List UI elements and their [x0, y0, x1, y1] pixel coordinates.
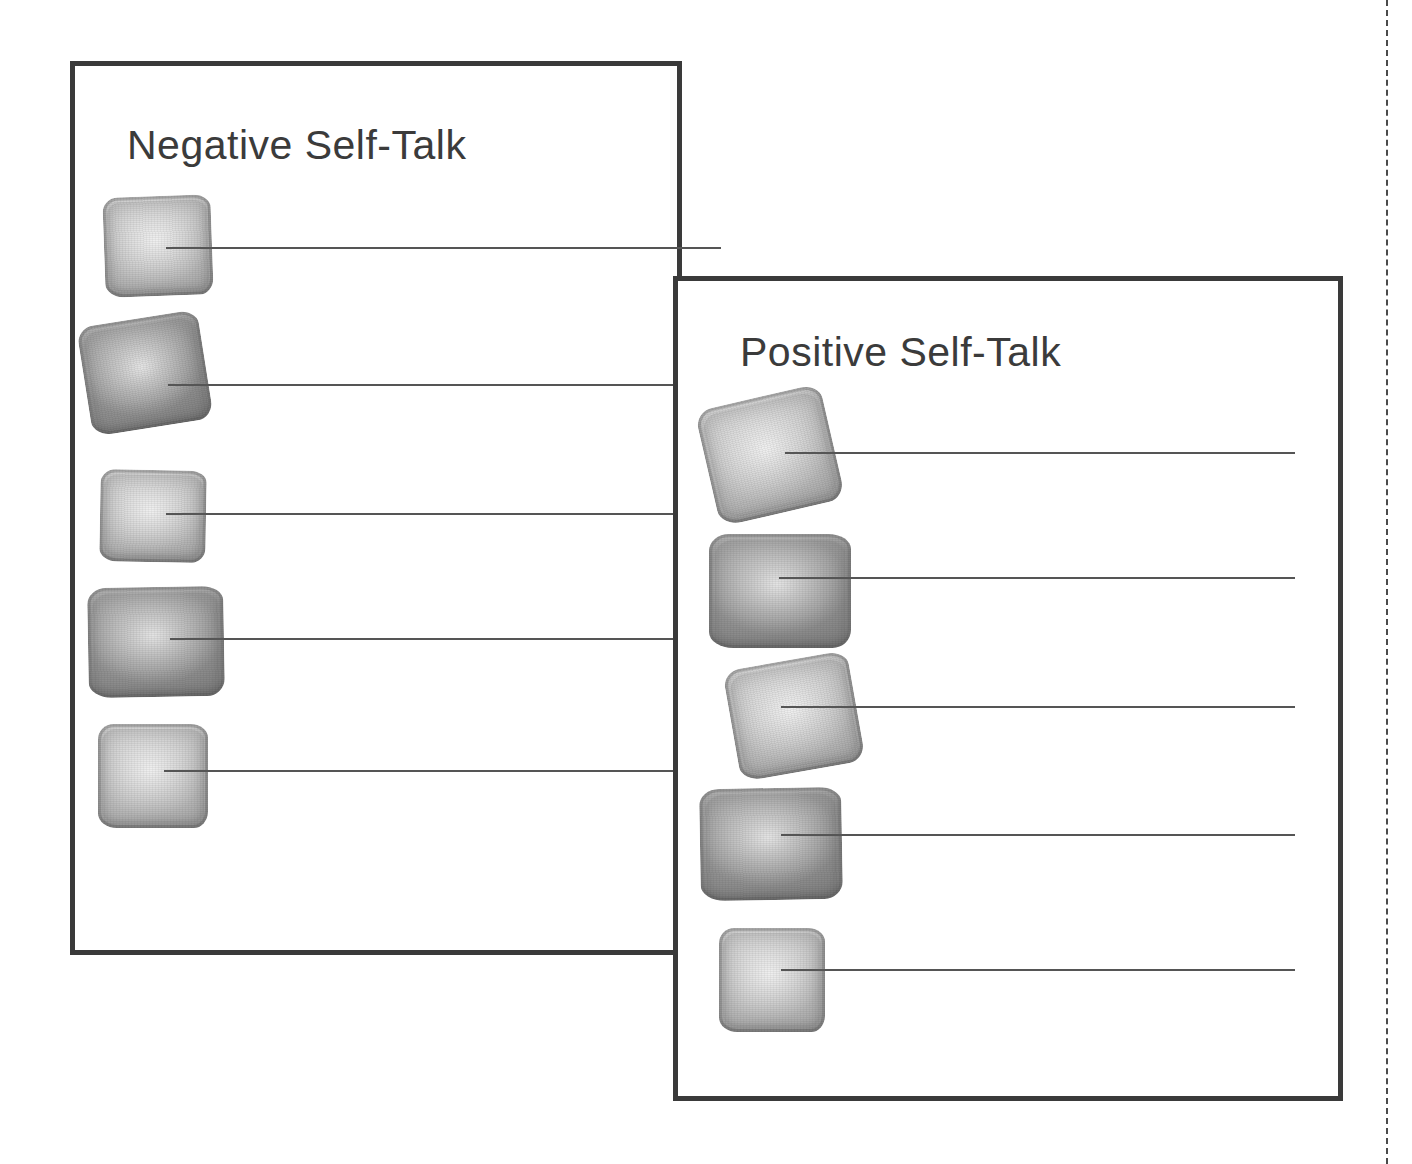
positive-rows-layer: [0, 0, 1412, 1164]
write-on-line[interactable]: [785, 452, 1295, 454]
write-on-line[interactable]: [779, 577, 1295, 579]
stone-icon: [699, 787, 843, 901]
worksheet-page: Negative Self-Talk Positive Self-Talk: [0, 0, 1412, 1164]
stone-icon: [694, 383, 845, 527]
stone-icon: [719, 928, 825, 1032]
write-on-line[interactable]: [781, 834, 1295, 836]
write-on-line[interactable]: [781, 969, 1295, 971]
write-on-line[interactable]: [781, 706, 1295, 708]
stone-icon: [722, 650, 866, 782]
stone-icon: [709, 534, 851, 648]
